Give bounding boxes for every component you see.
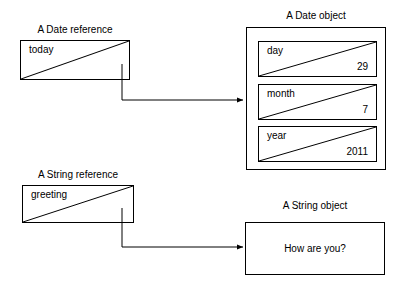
- date-reference-variable-name: today: [29, 44, 53, 56]
- date-object-field-day-value: 29: [357, 61, 368, 73]
- date-object-field-year[interactable]: year 2011: [258, 126, 377, 162]
- connector-date-reference-to-date-object: [122, 64, 243, 100]
- date-object-field-year-value: 2011: [346, 146, 368, 158]
- date-object-caption: A Date object: [246, 10, 386, 22]
- date-object-field-day-name: day: [267, 45, 283, 57]
- date-object-field-month-value: 7: [362, 104, 368, 116]
- date-object-field-month-name: month: [267, 88, 295, 100]
- string-object-content: How are you?: [284, 243, 346, 255]
- string-object-caption: A String object: [245, 200, 385, 212]
- string-reference-variable-name: greeting: [31, 189, 67, 201]
- string-reference-caption: A String reference: [22, 169, 134, 181]
- date-reference-box[interactable]: today: [20, 40, 130, 80]
- connector-string-reference-to-string-object: [122, 208, 243, 247]
- date-object-box[interactable]: day 29 month 7 year 2011: [246, 27, 386, 170]
- diagram-canvas: A Date reference today A Date object day…: [0, 0, 407, 289]
- string-reference-box[interactable]: greeting: [22, 185, 134, 223]
- string-object-box[interactable]: How are you?: [245, 222, 385, 275]
- date-object-field-year-name: year: [267, 130, 286, 142]
- date-object-field-day[interactable]: day 29: [258, 41, 377, 77]
- date-reference-caption: A Date reference: [20, 24, 130, 36]
- date-object-field-month[interactable]: month 7: [258, 84, 377, 120]
